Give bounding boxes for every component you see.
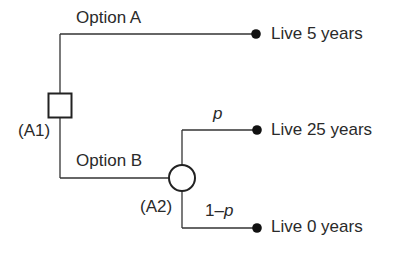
terminal-dot-icon <box>251 29 261 39</box>
decision-node-square-icon <box>49 94 72 118</box>
chance-node-circle-icon <box>169 165 195 191</box>
terminal-dot-icon <box>252 223 262 233</box>
option-b-label: Option B <box>76 151 142 171</box>
outcome-live-0-years: Live 0 years <box>271 217 363 237</box>
probability-one-minus-p-label: 1–p <box>205 201 233 221</box>
decision-node-label: (A1) <box>18 121 50 141</box>
outcome-live-25-years: Live 25 years <box>271 120 372 140</box>
terminal-dot-icon <box>252 125 262 135</box>
chance-node-label: (A2) <box>140 197 172 217</box>
p-variable: p <box>224 201 233 220</box>
option-a-label: Option A <box>76 8 141 28</box>
outcome-live-5-years: Live 5 years <box>271 24 363 44</box>
probability-p-label: p <box>213 104 222 124</box>
one-minus-prefix: 1– <box>205 201 224 220</box>
